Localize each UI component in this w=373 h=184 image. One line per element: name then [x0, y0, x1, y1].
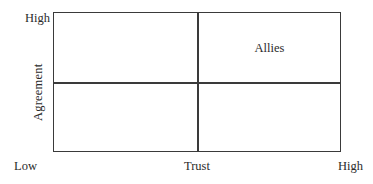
quadrant-bottom-left[interactable]	[54, 84, 197, 151]
x-axis-high-label: High	[305, 160, 363, 173]
quadrant-top-left[interactable]	[54, 13, 197, 82]
x-axis-low-label: Low	[14, 160, 37, 173]
x-axis-title: Trust	[157, 160, 237, 173]
y-axis-high-label: High	[14, 12, 50, 25]
quadrant-label-allies: Allies	[199, 42, 340, 55]
quadrant-bottom-right[interactable]	[199, 84, 340, 151]
horizontal-divider-line	[53, 82, 341, 84]
agreement-trust-matrix: Allies High Agreement Low Trust High	[0, 0, 373, 184]
y-axis-title: Agreement	[32, 52, 45, 132]
